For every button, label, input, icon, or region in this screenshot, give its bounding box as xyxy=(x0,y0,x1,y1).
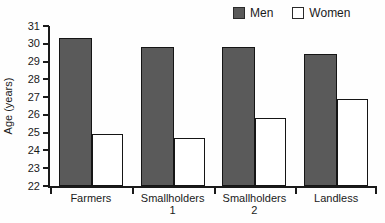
plot-area: 22232425262728293031FarmersSmallholders … xyxy=(48,26,377,188)
y-tick-label: 27 xyxy=(10,92,40,103)
y-tick-label: 28 xyxy=(10,74,40,85)
y-tick xyxy=(43,132,49,134)
y-tick xyxy=(43,114,49,116)
y-tick xyxy=(43,61,49,63)
legend-item-women: Women xyxy=(292,6,350,20)
x-category-label: Landless xyxy=(295,192,377,204)
bar-men-farmers xyxy=(59,38,92,186)
bar-chart-figure: Men Women Age (years) 222324252627282930… xyxy=(0,0,385,223)
men-legend-label: Men xyxy=(250,6,273,20)
x-category-label: Smallholders 1 xyxy=(132,192,214,216)
y-tick xyxy=(43,25,49,27)
bar-men-smallholders-1 xyxy=(141,47,174,186)
bar-men-landless xyxy=(304,54,337,186)
y-tick xyxy=(43,167,49,169)
y-tick-label: 29 xyxy=(10,56,40,67)
y-tick-label: 30 xyxy=(10,38,40,49)
legend-item-men: Men xyxy=(233,6,273,20)
y-tick xyxy=(43,149,49,151)
bar-women-smallholders-2 xyxy=(255,118,286,186)
men-legend-swatch xyxy=(233,7,245,19)
bar-men-smallholders-2 xyxy=(222,47,255,186)
y-tick xyxy=(43,96,49,98)
y-tick-label: 22 xyxy=(10,181,40,192)
y-tick xyxy=(43,43,49,45)
y-tick-label: 24 xyxy=(10,145,40,156)
y-tick-label: 31 xyxy=(10,21,40,32)
women-legend-swatch xyxy=(292,7,304,19)
women-legend-label: Women xyxy=(309,6,350,20)
bar-women-landless xyxy=(337,99,368,186)
y-tick xyxy=(43,78,49,80)
legend: Men Women xyxy=(233,6,350,20)
y-tick-label: 23 xyxy=(10,163,40,174)
bar-women-smallholders-1 xyxy=(174,138,205,186)
y-tick-label: 26 xyxy=(10,109,40,120)
x-category-label: Farmers xyxy=(50,192,132,204)
y-tick-label: 25 xyxy=(10,127,40,138)
x-category-label: Smallholders 2 xyxy=(214,192,296,216)
y-tick xyxy=(43,185,49,187)
bar-women-farmers xyxy=(92,134,123,186)
